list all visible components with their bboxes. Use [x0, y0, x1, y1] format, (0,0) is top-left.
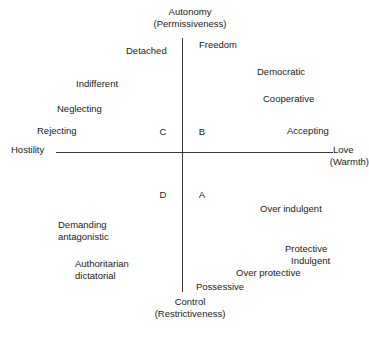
quadrant-diagram: Autonomy (Permissiveness) Control (Restr… — [0, 0, 369, 338]
vertical-axis-line — [182, 38, 183, 292]
quadrant-letter-c: C — [160, 126, 167, 137]
trait-indifferent: Indifferent — [76, 78, 118, 90]
trait-neglecting: Neglecting — [57, 103, 102, 115]
trait-possessive: Possessive — [196, 281, 244, 293]
trait-freedom: Freedom — [199, 39, 237, 51]
trait-accepting: Accepting — [287, 125, 329, 137]
axis-label-control: Control — [175, 296, 206, 308]
trait-cooperative: Cooperative — [263, 93, 314, 105]
axis-label-autonomy: Autonomy — [169, 6, 212, 18]
horizontal-axis-line — [56, 152, 333, 153]
trait-authoritarian: Authoritarian — [75, 258, 129, 270]
trait-detached: Detached — [126, 45, 167, 57]
trait-over-protective: Over protective — [236, 267, 300, 279]
axis-sublabel-warmth: (Warmth) — [330, 156, 369, 168]
trait-rejecting: Rejecting — [37, 125, 77, 137]
quadrant-letter-d: D — [160, 189, 167, 200]
axis-label-hostility: Hostility — [11, 144, 44, 156]
axis-sublabel-permissiveness: (Permissiveness) — [154, 18, 227, 30]
trait-antagonistic: antagonistic — [58, 231, 109, 243]
trait-indulgent: Indulgent — [291, 255, 330, 267]
trait-protective: Protective — [285, 243, 327, 255]
axis-label-love: Love — [333, 144, 354, 156]
quadrant-letter-b: B — [199, 126, 205, 137]
quadrant-letter-a: A — [199, 189, 205, 200]
trait-democratic: Democratic — [257, 66, 305, 78]
trait-dictatorial: dictatorial — [75, 270, 116, 282]
axis-sublabel-restrictiveness: (Restrictiveness) — [155, 308, 226, 320]
trait-over-indulgent: Over indulgent — [260, 203, 322, 215]
trait-demanding: Demanding — [58, 219, 107, 231]
